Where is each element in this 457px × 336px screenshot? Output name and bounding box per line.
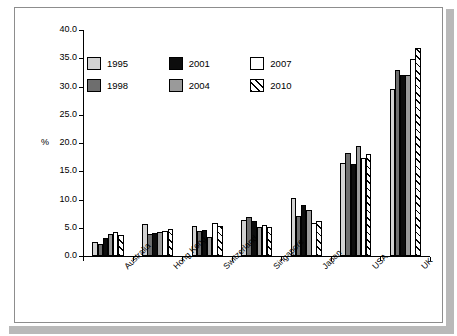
x-axis-label-switzerland: Switzerland xyxy=(221,264,228,271)
x-axis-label-usa: USA xyxy=(370,264,377,271)
chart-legend: 199520012007199820042010 xyxy=(87,52,332,96)
legend-item-1998[interactable]: 1998 xyxy=(87,74,169,96)
bar-uk-2010[interactable] xyxy=(415,48,421,256)
legend-item-2007[interactable]: 2007 xyxy=(250,52,332,74)
legend-swatch-icon-2001 xyxy=(169,57,183,70)
bar-australia-2010[interactable] xyxy=(118,235,124,256)
x-axis-tick xyxy=(83,257,84,261)
y-axis-tick-label: 10.0 xyxy=(37,194,77,204)
bar-singapore-2010[interactable] xyxy=(267,227,273,256)
legend-item-2001[interactable]: 2001 xyxy=(169,52,251,74)
legend-swatch-icon-2007 xyxy=(250,57,264,70)
x-axis-label-hong-kong: Hong Kong xyxy=(171,264,178,271)
x-axis-label-uk: UK xyxy=(419,264,426,271)
bar-switzerland-2010[interactable] xyxy=(217,226,223,256)
chart-page: % 0.05.010.015.020.025.030.035.040.0 Aus… xyxy=(0,0,457,336)
legend-label: 1998 xyxy=(107,80,128,91)
frame-shadow-bottom xyxy=(9,326,454,334)
legend-label: 2004 xyxy=(189,80,210,91)
legend-swatch-icon-2004 xyxy=(169,79,183,92)
bar-hong-kong-2010[interactable] xyxy=(168,229,174,256)
y-axis-tick-label: 25.0 xyxy=(37,109,77,119)
legend-item-2004[interactable]: 2004 xyxy=(169,74,251,96)
x-axis-label-japan: Japan xyxy=(320,264,327,271)
y-axis-tick-label: 5.0 xyxy=(37,222,77,232)
legend-label: 1995 xyxy=(107,58,128,69)
legend-swatch-icon-1998 xyxy=(87,79,101,92)
bar-usa-2010[interactable] xyxy=(366,154,372,256)
legend-item-1995[interactable]: 1995 xyxy=(87,52,169,74)
legend-swatch-icon-2010 xyxy=(250,79,264,92)
legend-label: 2001 xyxy=(189,58,210,69)
legend-label: 2007 xyxy=(270,58,291,69)
y-axis-tick-label: 15.0 xyxy=(37,165,77,175)
chart-frame: % 0.05.010.015.020.025.030.035.040.0 Aus… xyxy=(14,7,443,323)
y-axis-tick-label: 35.0 xyxy=(37,52,77,62)
x-axis-label-singapore: Singapore xyxy=(271,264,278,271)
y-axis-tick-label: 20.0 xyxy=(37,137,77,147)
frame-shadow-right xyxy=(446,9,454,334)
legend-swatch-icon-1995 xyxy=(87,57,101,70)
legend-label: 2010 xyxy=(270,80,291,91)
y-axis-tick-label: 40.0 xyxy=(37,24,77,34)
y-axis-tick-label: 30.0 xyxy=(37,81,77,91)
y-axis-line xyxy=(83,30,84,257)
bar-japan-2010[interactable] xyxy=(316,221,322,256)
x-axis-label-australia: Australia xyxy=(122,264,129,271)
bar-chart: % 0.05.010.015.020.025.030.035.040.0 Aus… xyxy=(15,8,444,324)
legend-item-2010[interactable]: 2010 xyxy=(250,74,332,96)
y-axis-tick-label: 0.0 xyxy=(37,250,77,260)
